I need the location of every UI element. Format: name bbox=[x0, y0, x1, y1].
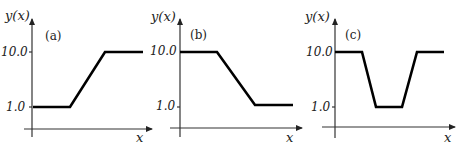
tick-high: 10.0 bbox=[1, 45, 28, 59]
panel-label: (a) bbox=[45, 29, 62, 43]
panel-label: (c) bbox=[345, 28, 361, 42]
tick-low: 1.0 bbox=[311, 100, 330, 114]
y-axis-label: y(x) bbox=[304, 9, 330, 24]
y-axis-label: y(x) bbox=[4, 8, 30, 23]
tick-low: 1.0 bbox=[156, 99, 175, 113]
panel-c: y(x) x (c) 10.0 1.0 bbox=[304, 9, 455, 145]
y-axis-label: y(x) bbox=[150, 9, 176, 24]
panel-b: y(x) x (b) 10.0 1.0 bbox=[150, 9, 302, 145]
panel-a: y(x) x (a) 10.0 1.0 bbox=[1, 8, 152, 145]
curve-c bbox=[335, 52, 444, 107]
x-axis-label: x bbox=[136, 130, 144, 145]
curve-b bbox=[180, 52, 293, 105]
figure: y(x) x (a) 10.0 1.0 y(x) x (b) 10.0 1.0 … bbox=[0, 0, 463, 145]
x-axis-label: x bbox=[444, 130, 452, 145]
tick-high: 10.0 bbox=[150, 44, 177, 58]
curve-a bbox=[33, 52, 143, 107]
panel-label: (b) bbox=[190, 28, 207, 42]
x-axis-label: x bbox=[286, 130, 294, 145]
tick-high: 10.0 bbox=[306, 45, 333, 59]
tick-low: 1.0 bbox=[6, 100, 25, 114]
